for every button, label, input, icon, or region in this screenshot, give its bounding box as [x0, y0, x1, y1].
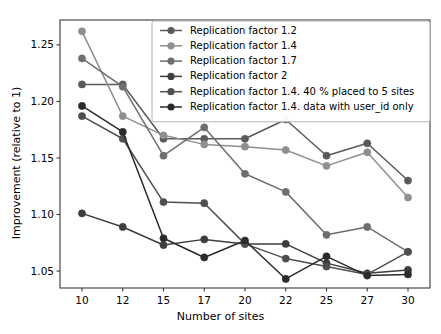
chart-legend: Replication factor 1.2Replication factor… [152, 21, 430, 122]
data-point [201, 124, 208, 131]
data-point [119, 83, 126, 90]
data-point [241, 237, 248, 244]
legend-label: Replication factor 1.7 [190, 55, 297, 66]
data-point [404, 194, 411, 201]
legend-label: Replication factor 1.4. data with user_i… [190, 101, 414, 113]
data-point [119, 128, 126, 135]
y-axis-title: Improvement (relative to 1) [10, 18, 23, 308]
data-point [201, 141, 208, 148]
legend-item[interactable]: Replication factor 1.4. data with user_i… [160, 101, 414, 113]
data-point [404, 248, 411, 255]
data-point [282, 188, 289, 195]
data-point [364, 149, 371, 156]
data-point [282, 240, 289, 247]
data-point [323, 152, 330, 159]
data-point [323, 162, 330, 169]
data-point [160, 132, 167, 139]
line-chart: 1.051.101.151.201.25101215172022252730 R… [0, 0, 441, 334]
legend-label: Replication factor 1.4. 40 % placed to 5… [190, 86, 414, 97]
x-tick-label: 25 [320, 294, 333, 306]
data-point [201, 200, 208, 207]
y-tick-label: 1.10 [31, 208, 54, 220]
data-point [323, 253, 330, 260]
x-tick-label: 17 [198, 294, 211, 306]
data-point [119, 113, 126, 120]
data-point [78, 102, 85, 109]
x-tick-label: 15 [157, 294, 170, 306]
data-point [241, 143, 248, 150]
data-point [201, 254, 208, 261]
data-point [282, 275, 289, 282]
data-point [119, 223, 126, 230]
legend-label: Replication factor 1.4 [190, 40, 297, 51]
legend-item[interactable]: Replication factor 1.4. 40 % placed to 5… [160, 86, 414, 97]
y-tick-label: 1.20 [31, 95, 54, 107]
x-axis-title: Number of sites [0, 310, 441, 323]
data-point [78, 210, 85, 217]
data-point [323, 263, 330, 270]
y-tick-label: 1.25 [31, 38, 54, 50]
data-point [241, 135, 248, 142]
data-point [404, 177, 411, 184]
data-point [241, 170, 248, 177]
data-point [160, 198, 167, 205]
data-point [282, 255, 289, 262]
data-point [404, 271, 411, 278]
x-tick-label: 27 [361, 294, 374, 306]
data-point [78, 81, 85, 88]
data-point [78, 28, 85, 35]
data-point [201, 236, 208, 243]
x-tick-label: 12 [116, 294, 129, 306]
data-point [323, 231, 330, 238]
chart-figure: 1.051.101.151.201.25101215172022252730 R… [0, 0, 441, 334]
legend-label: Replication factor 2 [190, 70, 287, 81]
data-point [282, 146, 289, 153]
y-tick-label: 1.15 [31, 152, 54, 164]
x-tick-label: 22 [279, 294, 292, 306]
data-point [160, 152, 167, 159]
legend-label: Replication factor 1.2 [190, 25, 297, 36]
data-point [160, 241, 167, 248]
data-point [78, 55, 85, 62]
x-tick-label: 20 [238, 294, 251, 306]
y-tick-label: 1.05 [31, 265, 54, 277]
x-tick-label: 30 [401, 294, 414, 306]
data-point [78, 113, 85, 120]
x-tick-label: 10 [75, 294, 88, 306]
data-point [364, 140, 371, 147]
data-point [160, 235, 167, 242]
data-point [364, 223, 371, 230]
data-point [364, 272, 371, 279]
